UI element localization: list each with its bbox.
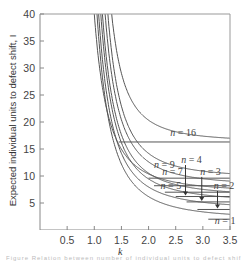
x-tick-label: 3.5 [220,234,240,246]
y-tick-label: 40 [23,8,35,20]
arrow-head-icon [215,204,220,208]
curve-9 [107,3,230,173]
series-label: n = 5 [161,180,182,191]
y-tick-label: 15 [23,143,35,155]
y-axis-label: Expected individual units to defect shif… [7,21,18,221]
curve-16 [111,3,230,138]
y-tick-label: 30 [23,62,35,74]
x-tick-label: 1.0 [84,234,104,246]
series-label: n = 9 [154,159,175,170]
arrow-head-icon [183,192,188,196]
x-tick-label: 0.5 [57,234,77,246]
series-label: n = 4 [181,154,202,165]
y-tick-label: 25 [23,89,35,101]
x-tick-label: 1.5 [111,234,131,246]
curve-7 [104,3,230,181]
x-tick-label: 2.0 [139,234,159,246]
series-label: n = 16 [170,127,196,138]
arrow-head-icon [199,197,204,201]
chart: 510152025303540 n = 1n = 2n = 3n = 4n = … [0,0,245,230]
figure-caption: Figure Relation between number of indivi… [6,255,241,261]
x-tick-label: 2.5 [166,234,186,246]
series-label: n = 1 [215,215,236,226]
y-tick-label: 35 [23,35,35,47]
x-tick-label: 3.0 [193,234,213,246]
y-tick-label: 5 [29,197,35,209]
x-axis-label: k [118,246,122,257]
series-label: n = 2 [214,180,235,191]
y-tick-label: 10 [23,170,35,182]
series-label: n = 3 [200,166,221,177]
y-tick-label: 20 [23,116,35,128]
